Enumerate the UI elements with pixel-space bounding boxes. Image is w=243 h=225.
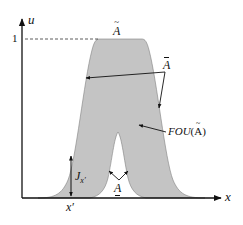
j-subscript: x′ bbox=[80, 176, 85, 185]
fou-diagram bbox=[0, 0, 243, 225]
x-axis-label: x bbox=[225, 190, 231, 203]
j-x-prime-label: Jx′ bbox=[75, 170, 86, 185]
upper-mf-text: A bbox=[163, 58, 170, 72]
lower-mf-text: A bbox=[114, 181, 121, 195]
tilde-a-label: ~A bbox=[113, 25, 120, 37]
lower-mf-arrow-left bbox=[109, 171, 119, 180]
y-tick-label-1: 1 bbox=[12, 33, 18, 44]
tilde-mark: ~ bbox=[113, 18, 120, 27]
lower-mf-label: A bbox=[114, 182, 121, 194]
fou-prefix: FOU bbox=[168, 125, 191, 137]
upper-mf-arrow-right bbox=[159, 72, 165, 108]
fou-label: FOU(~A) bbox=[168, 126, 206, 137]
x-prime-label: x′ bbox=[66, 201, 74, 213]
upper-mf-label: A bbox=[163, 59, 170, 71]
fou-close-paren: ) bbox=[202, 125, 206, 137]
y-axis-label: u bbox=[28, 13, 35, 26]
lower-mf-arrow-right bbox=[119, 171, 128, 180]
fou-region bbox=[38, 39, 205, 198]
